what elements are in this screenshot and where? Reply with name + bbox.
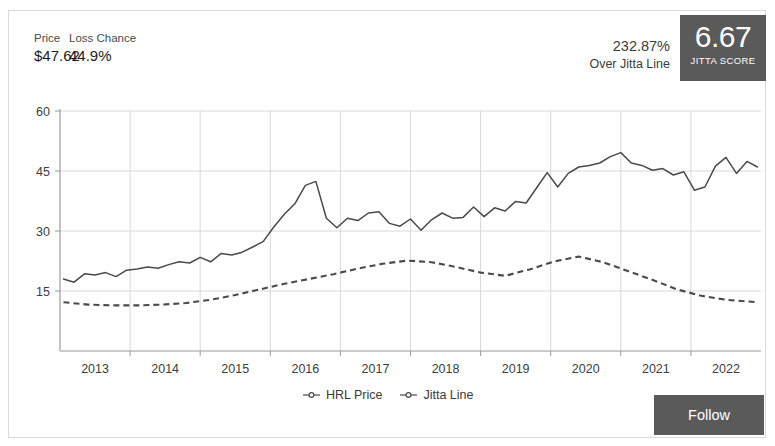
jitta-percent-label: Over Jitta Line [589,56,670,73]
over-jitta-line-metric: 232.87% Over Jitta Line [589,37,670,73]
chart-header: Price $47.62 Loss Chance 44.9% 232.87% O… [9,11,765,83]
jitta-score-value: 6.67 [680,20,766,54]
loss-chance-label: Loss Chance [69,31,136,46]
svg-text:2019: 2019 [502,362,530,376]
svg-text:2016: 2016 [291,362,319,376]
svg-text:45: 45 [36,165,50,179]
jitta-score-caption: JITTA SCORE [680,54,766,67]
svg-text:2020: 2020 [572,362,600,376]
legend-label-hrl-price: HRL Price [326,388,383,402]
svg-text:2017: 2017 [362,362,390,376]
axes [55,109,761,356]
svg-text:2021: 2021 [642,362,670,376]
svg-text:2015: 2015 [221,362,249,376]
jitta-percent-value: 232.87% [589,37,670,56]
legend-marker-dashed-icon [400,390,417,400]
svg-text:2018: 2018 [432,362,460,376]
y-axis-tick-labels: 15304560 [36,105,50,299]
legend-item-jitta-line: Jitta Line [400,387,474,402]
svg-text:2014: 2014 [151,362,179,376]
svg-text:2013: 2013 [81,362,109,376]
legend-marker-solid-icon [303,390,320,400]
svg-text:60: 60 [36,105,50,119]
legend-label-jitta-line: Jitta Line [423,388,473,402]
follow-button[interactable]: Follow [654,395,764,435]
svg-text:30: 30 [36,225,50,239]
stock-chart-card: Price $47.62 Loss Chance 44.9% 232.87% O… [8,10,766,438]
legend-item-hrl-price: HRL Price [303,387,383,402]
price-chart: 15304560 2013201420152016201720182019202… [9,83,767,395]
loss-chance-metric: Loss Chance 44.9% [69,31,136,66]
svg-text:2022: 2022 [712,362,740,376]
chart-svg: 15304560 2013201420152016201720182019202… [9,83,767,395]
x-axis-tick-labels: 2013201420152016201720182019202020212022 [81,362,740,376]
svg-text:15: 15 [36,285,50,299]
jitta-score-badge: 6.67 JITTA SCORE [680,15,766,81]
gridlines [60,111,761,351]
loss-chance-value: 44.9% [69,46,136,66]
